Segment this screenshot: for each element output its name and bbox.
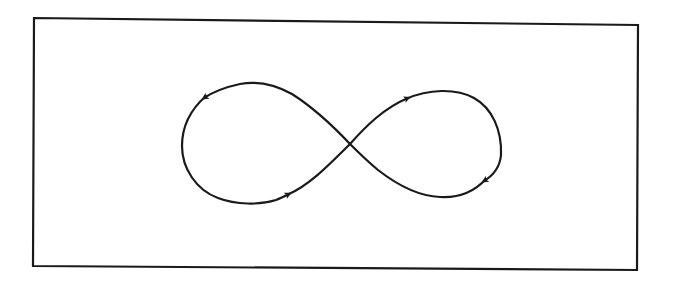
infinity-diagram [0,0,675,283]
page-background [0,0,675,283]
